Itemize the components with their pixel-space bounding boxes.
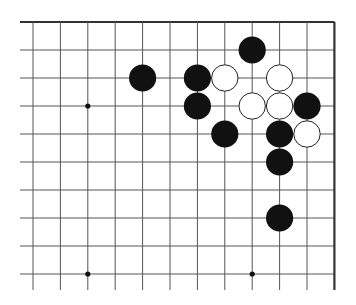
white-stone-icon	[212, 65, 238, 91]
black-stone-icon	[129, 64, 156, 91]
black-stone-icon	[266, 120, 293, 147]
white-stone-icon	[266, 65, 292, 91]
black-stone-icon	[184, 92, 211, 119]
black-stone-icon	[184, 64, 211, 91]
black-stone-icon	[266, 204, 293, 231]
white-stone-icon	[239, 93, 265, 119]
star-point-icon	[85, 271, 90, 276]
black-stone-icon	[211, 120, 238, 147]
star-point-icon	[250, 271, 255, 276]
black-stone-icon	[266, 148, 293, 175]
black-stone-icon	[239, 36, 266, 63]
go-board	[0, 0, 356, 305]
star-point-icon	[85, 103, 90, 108]
black-stone-icon	[293, 92, 320, 119]
white-stone-icon	[294, 121, 320, 147]
white-stone-icon	[266, 93, 292, 119]
